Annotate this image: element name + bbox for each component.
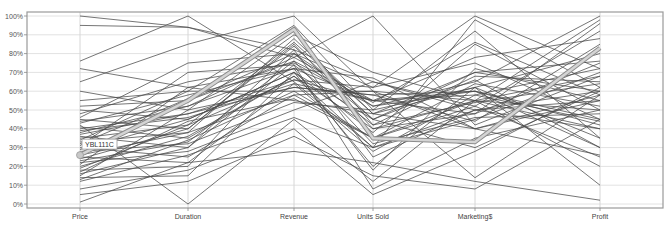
y-tick-label: 20% (9, 163, 23, 170)
y-tick-label: 60% (9, 88, 23, 95)
y-tick-label: 50% (9, 107, 23, 114)
series-line[interactable] (80, 119, 600, 194)
axis-label-marketing-: Marketing$ (458, 213, 493, 221)
y-tick-label: 100% (5, 13, 23, 20)
axis-label-profit: Profit (592, 213, 608, 220)
chart-canvas: YBL111C 0%10%20%30%40%50%60%70%80%90%100… (0, 0, 671, 232)
y-tick-label: 40% (9, 125, 23, 132)
y-tick-label: 80% (9, 50, 23, 57)
highlight-label: YBL111C (85, 141, 114, 148)
y-tick-label: 30% (9, 144, 23, 151)
parallel-coordinates-chart: YBL111C 0%10%20%30%40%50%60%70%80%90%100… (0, 0, 671, 232)
series-line[interactable] (80, 16, 600, 114)
series-line[interactable] (80, 50, 600, 157)
y-axis-ticks: 0%10%20%30%40%50%60%70%80%90%100% (5, 13, 27, 208)
axis-label-revenue: Revenue (280, 213, 308, 220)
x-axis-labels: PriceDurationRevenueUnits SoldMarketing$… (72, 208, 608, 221)
axis-label-units-sold: Units Sold (357, 213, 389, 220)
highlight-point-marker[interactable] (77, 152, 84, 159)
y-tick-label: 0% (13, 201, 23, 208)
y-tick-label: 70% (9, 69, 23, 76)
axis-label-duration: Duration (175, 213, 202, 220)
y-tick-label: 90% (9, 31, 23, 38)
y-tick-label: 10% (9, 182, 23, 189)
axis-label-price: Price (72, 213, 88, 220)
